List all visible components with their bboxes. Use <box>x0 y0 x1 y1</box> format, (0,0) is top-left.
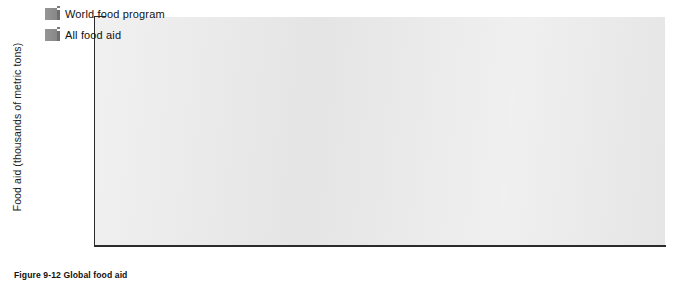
legend-label: World food program <box>65 8 165 20</box>
legend-item-all-food-aid: All food aid <box>45 29 165 41</box>
legend: World food program All food aid <box>45 8 165 50</box>
plot-area <box>95 17 665 245</box>
figure-global-food-aid: Food aid (thousands of metric tons) Worl… <box>0 0 673 282</box>
legend-label: All food aid <box>65 29 121 41</box>
legend-swatch-icon <box>45 8 57 20</box>
legend-swatch-icon <box>45 29 57 41</box>
figure-caption: Figure 9-12 Global food aid <box>14 270 127 282</box>
x-axis-line <box>94 245 666 247</box>
legend-item-world-food-program: World food program <box>45 8 165 20</box>
x-axis-labels <box>95 249 665 265</box>
